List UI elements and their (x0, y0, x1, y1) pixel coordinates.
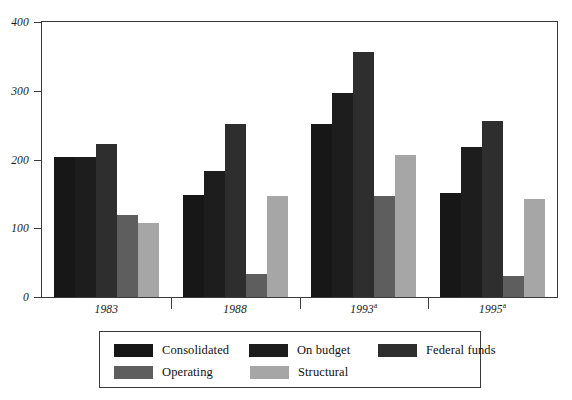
legend-item-consolidated: Consolidated (100, 343, 249, 358)
bar (440, 193, 461, 298)
bar (524, 199, 545, 297)
legend: Consolidated On budget Federal funds Ope… (99, 331, 481, 388)
bar-group-bars (42, 22, 171, 297)
bar-group-bars (300, 22, 429, 297)
bar (503, 276, 524, 297)
legend-label-structural: Structural (298, 365, 348, 380)
bar-group (428, 22, 557, 297)
legend-item-federal-funds: Federal funds (378, 343, 480, 358)
y-tick-mark (34, 91, 41, 92)
bar (117, 215, 138, 298)
legend-row-1: Consolidated On budget Federal funds (100, 339, 480, 361)
bar (461, 147, 482, 297)
bar-chart: 0100200300400 198319881993a1995a Consoli… (0, 0, 572, 400)
bar-group (42, 22, 171, 297)
y-tick-label: 100 (11, 222, 29, 234)
legend-item-operating: Operating (100, 365, 250, 380)
x-tick-label: 1993a (350, 303, 377, 315)
x-group-separator (428, 298, 429, 309)
bar (311, 124, 332, 297)
bar (395, 155, 416, 297)
y-tick-label: 300 (11, 85, 29, 97)
legend-swatch-federal-funds (378, 344, 417, 357)
bar (138, 223, 159, 297)
bar-group-bars (428, 22, 557, 297)
bar (75, 157, 96, 297)
y-tick-label: 200 (11, 154, 29, 166)
x-tick-label: 1995a (479, 303, 506, 315)
legend-label-on-budget: On budget (297, 343, 350, 358)
legend-swatch-operating (114, 366, 153, 379)
legend-swatch-consolidated (114, 344, 153, 357)
bar (246, 274, 267, 297)
x-tick-label: 1988 (223, 303, 247, 315)
x-group-separator (300, 298, 301, 309)
legend-swatch-structural (250, 366, 289, 379)
legend-item-on-budget: On budget (249, 343, 378, 358)
legend-label-federal-funds: Federal funds (426, 343, 496, 358)
bar (183, 195, 204, 297)
legend-label-consolidated: Consolidated (162, 343, 229, 358)
bar (267, 196, 288, 297)
y-tick-label: 400 (11, 16, 29, 28)
y-axis: 0100200300400 (0, 0, 41, 320)
x-group-separator (171, 298, 172, 309)
bar (225, 124, 246, 297)
legend-label-operating: Operating (162, 365, 213, 380)
plot-area (42, 22, 557, 297)
bar (482, 121, 503, 297)
bar (54, 157, 75, 297)
legend-row-2: Operating Structural (100, 361, 480, 383)
legend-item-structural: Structural (250, 365, 380, 380)
legend-swatch-on-budget (249, 344, 288, 357)
bar (374, 196, 395, 297)
bar-group (171, 22, 300, 297)
bar (353, 52, 374, 297)
y-tick-mark (34, 160, 41, 161)
bar-group (300, 22, 429, 297)
y-tick-label: 0 (23, 291, 29, 303)
bar (204, 171, 225, 297)
x-tick-label: 1983 (94, 303, 118, 315)
bar-group-bars (171, 22, 300, 297)
bar (96, 144, 117, 297)
bar (332, 93, 353, 297)
y-tick-mark (34, 297, 41, 298)
y-tick-mark (34, 22, 41, 23)
y-tick-mark (34, 228, 41, 229)
